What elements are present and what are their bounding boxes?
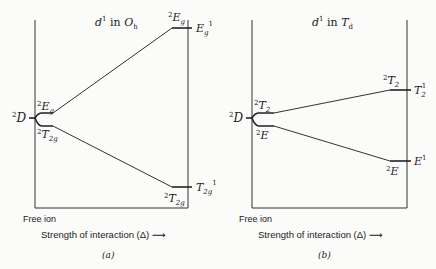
right-t2g-label: 2T2g [164,192,185,207]
e-split-start [252,118,274,126]
limit-eg-label: Eg1 [195,20,213,37]
free-ion-term-label: 2D [12,111,26,125]
correlation-diagrams: d1 in Oh 2D 2Eg 2T2g 2Eg 2T2g Eg1 T2g1 F… [0,0,436,269]
left-t2g-label: 2T2g [37,128,58,143]
free-ion-label: Free ion [239,214,272,224]
t2-split-start [252,113,274,118]
t2-correlation-line [274,90,390,113]
limit-t2g-label: T2g1 [196,179,217,196]
panel-title: d1 in Oh [95,15,138,31]
panel-a-octahedral: d1 in Oh 2D 2Eg 2T2g 2Eg 2T2g Eg1 T2g1 F… [12,11,217,260]
right-eg-label: 2Eg [168,11,186,26]
e-correlation-line [274,126,390,161]
right-t2-label: 2T2 [383,74,400,89]
eg-correlation-line [53,28,172,113]
panel-caption: (b) [318,250,331,260]
t2g-split-start [35,118,53,126]
free-ion-term-label: 2D [229,111,243,125]
limit-e-label: E1 [413,154,427,168]
panel-b-tetrahedral: d1 in Td 2D 2T2 2E 2T2 2E T21 E1 Free io… [229,15,427,260]
x-axis-label: Strength of interaction (Δ) ⟶ [41,229,166,240]
t2g-correlation-line [53,126,172,187]
left-e-label: 2E [256,129,269,142]
x-axis-label: Strength of interaction (Δ) ⟶ [258,229,383,240]
panel-title: d1 in Td [312,15,353,31]
right-e-label: 2E [386,165,399,178]
limit-t2-label: T21 [414,82,426,99]
left-t2-label: 2T2 [254,99,271,114]
free-ion-label: Free ion [23,214,56,224]
panel-caption: (a) [102,250,115,260]
